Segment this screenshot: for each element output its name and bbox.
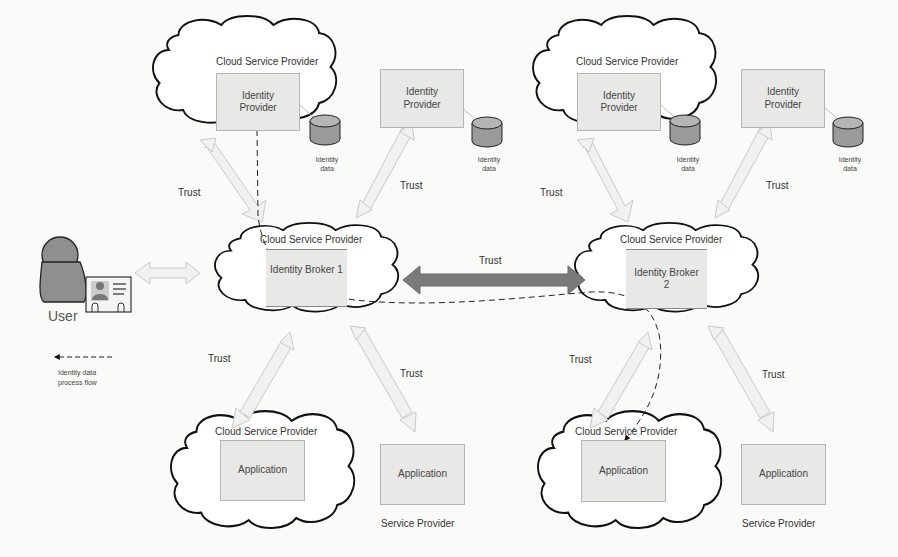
- db-label-right: Identity data: [835, 155, 865, 173]
- trust-label-9: Trust: [762, 369, 784, 380]
- legend-label-line1: Identity data: [58, 368, 96, 377]
- identity-provider-box-right-cloud: Identity Provider: [577, 73, 661, 131]
- trust-label-4: Trust: [766, 180, 788, 191]
- identity-broker-1-box: Identity Broker 1: [266, 249, 347, 307]
- cloud-label-broker-left: Cloud Service Provider: [260, 234, 362, 245]
- identity-provider-box-left-cloud: Identity Provider: [216, 73, 300, 131]
- trust-label-3: Trust: [540, 187, 562, 198]
- user-icon: [40, 237, 86, 302]
- id-card-icon: [86, 277, 131, 312]
- application-box-left-sp: Application: [380, 444, 465, 505]
- user-label: User: [48, 308, 78, 324]
- trust-label-8: Trust: [569, 354, 591, 365]
- trust-label-5: Trust: [479, 255, 501, 266]
- identity-broker-2-box: Identity Broker 2: [626, 249, 707, 309]
- trust-label-6: Trust: [208, 353, 230, 364]
- identity-provider-box-right: Identity Provider: [741, 69, 825, 128]
- db-label-left: Identity data: [474, 155, 504, 173]
- service-provider-caption-left: Service Provider: [381, 518, 454, 529]
- trust-label-2: Trust: [400, 180, 422, 191]
- broker-trust-arrow: [403, 266, 585, 294]
- trust-label-1: Trust: [178, 187, 200, 198]
- cloud-label-idp-left: Cloud Service Provider: [216, 56, 318, 67]
- cloud-label-broker-right: Cloud Service Provider: [620, 234, 722, 245]
- cloud-label-app-right: Cloud Service Provider: [575, 426, 677, 437]
- application-box-right-sp: Application: [741, 444, 826, 505]
- legend-label-line2: process flow: [58, 378, 97, 387]
- cloud-label-app-left: Cloud Service Provider: [215, 426, 317, 437]
- cloud-label-idp-right: Cloud Service Provider: [576, 56, 678, 67]
- db-label-left-cloud: Identity data: [312, 155, 342, 173]
- application-box-right-cloud: Application: [581, 440, 666, 502]
- service-provider-caption-right: Service Provider: [742, 518, 815, 529]
- db-label-right-cloud: Identity data: [673, 155, 703, 173]
- application-box-left-cloud: Application: [220, 440, 305, 501]
- identity-provider-box-left: Identity Provider: [380, 69, 464, 128]
- trust-label-7: Trust: [400, 368, 422, 379]
